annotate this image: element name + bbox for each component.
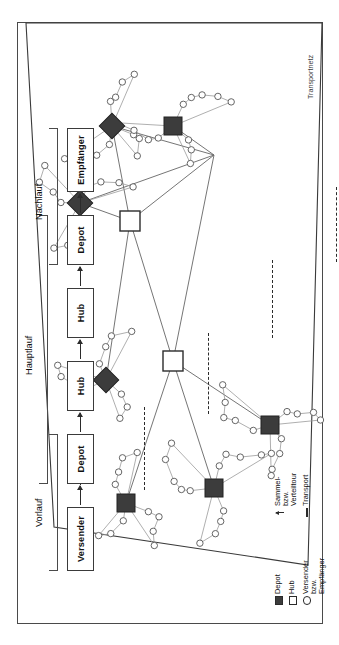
legend-item-transport: Transport xyxy=(302,475,312,519)
legend-label-depot: Depot xyxy=(274,574,282,594)
network-label: Transportnetz xyxy=(306,55,315,99)
open-circle-icon xyxy=(302,594,312,607)
legend-item-shipper-receiver: Versender bzw. Empfänger xyxy=(302,558,327,607)
line-icon xyxy=(302,506,312,519)
leader-line-depot-in xyxy=(336,187,337,262)
legend-label-hub: Hub xyxy=(288,580,296,594)
legend: Depot Hub Versender bzw. Empfänger Samme… xyxy=(18,23,322,623)
rotated-canvas: Versender Depot Hub Hub Depot Empfänger … xyxy=(18,23,322,623)
arrow-up-icon xyxy=(274,506,284,519)
legend-label-shipper-receiver: Versender bzw. Empfänger xyxy=(302,558,327,594)
figure-frame: Versender Depot Hub Hub Depot Empfänger … xyxy=(17,22,323,624)
legend-item-depot: Depot xyxy=(274,574,284,607)
open-square-icon xyxy=(288,594,298,607)
legend-item-hub: Hub xyxy=(288,580,298,607)
legend-label-transport: Transport xyxy=(302,475,310,506)
legend-label-tour: Sammel- bzw. Verteiltour xyxy=(274,473,299,506)
filled-square-icon xyxy=(274,594,284,607)
legend-item-tour: Sammel- bzw. Verteiltour xyxy=(274,473,299,519)
